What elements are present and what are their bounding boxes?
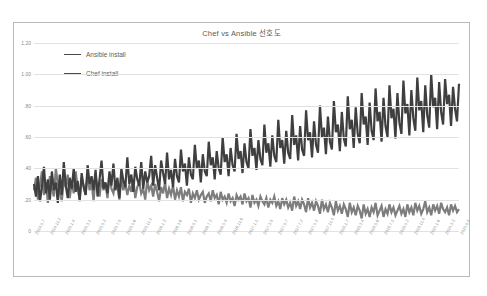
gridline [34, 43, 459, 44]
y-axis-tick-label: 0 [28, 228, 31, 234]
gridline [34, 74, 459, 75]
y-axis-tick-label: .80 [24, 103, 31, 109]
plot-area: 0.20.40.60.801.001.20 [34, 43, 459, 231]
x-axis-labels: 2014.9.72014.11.22015.1.42015.3.12015.5.… [34, 231, 459, 276]
y-axis-tick-label: .20 [24, 197, 31, 203]
y-axis-tick-label: .40 [24, 165, 31, 171]
gridline [34, 200, 459, 201]
gridline [34, 137, 459, 138]
gridline [34, 106, 459, 107]
y-axis-tick-label: 1.20 [21, 40, 31, 46]
chart-container: Chef vs Ansible 선호도 Ansible install Chef… [13, 22, 470, 277]
chart-title: Chef vs Ansible 선호도 [14, 27, 469, 38]
y-axis-tick-label: .60 [24, 134, 31, 140]
y-axis-tick-label: 1.00 [21, 71, 31, 77]
gridline [34, 168, 459, 169]
x-axis-tick-label: 2019.5.5 [459, 219, 471, 236]
